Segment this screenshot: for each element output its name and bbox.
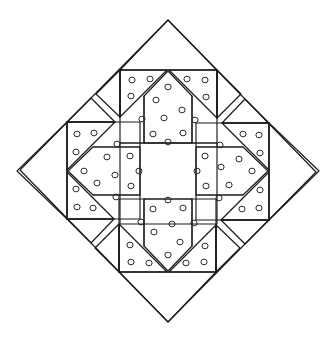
quilt-figure-root [0, 0, 335, 337]
quilt-diagram-svg [0, 0, 335, 337]
